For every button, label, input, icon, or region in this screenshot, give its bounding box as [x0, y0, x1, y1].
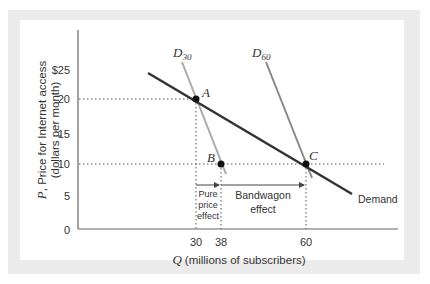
- y-tick: 5: [64, 190, 70, 202]
- svg-text:P, Price for Internet access: P, Price for Internet access: [34, 61, 49, 201]
- x-axis-label: Q(millions of subscribers): [172, 252, 305, 267]
- d30-label: D30: [172, 45, 192, 62]
- d60-curve: [266, 62, 312, 178]
- bandwagon-text: Bandwagon: [235, 189, 291, 201]
- point-a: [193, 96, 200, 103]
- pure-price-text: Pure: [198, 189, 217, 199]
- pure-price-text: price: [198, 200, 218, 210]
- svg-text:(dollars per month): (dollars per month): [49, 82, 61, 179]
- point-b: [218, 161, 225, 168]
- demand-label: Demand: [358, 193, 398, 205]
- y-axis-label: P, Price for Internet access (dollars pe…: [34, 61, 61, 201]
- point-c-label: C: [309, 148, 318, 163]
- d60-label: D60: [251, 45, 271, 62]
- point-b-label: B: [207, 150, 215, 165]
- x-tick: 60: [300, 236, 312, 248]
- bandwagon-text: effect: [250, 203, 276, 215]
- point-a-label: A: [201, 85, 210, 100]
- pure-price-text: effect: [197, 211, 219, 221]
- d30-curve: [182, 62, 226, 174]
- x-tick: 38: [215, 236, 227, 248]
- demand-curve: [148, 73, 352, 194]
- chart-svg: $25 20 15 10 5 0 30 38 60 Q(millions of …: [0, 0, 430, 284]
- x-tick: 30: [190, 236, 202, 248]
- y-tick: $25: [52, 64, 70, 76]
- y-tick: 0: [64, 224, 70, 236]
